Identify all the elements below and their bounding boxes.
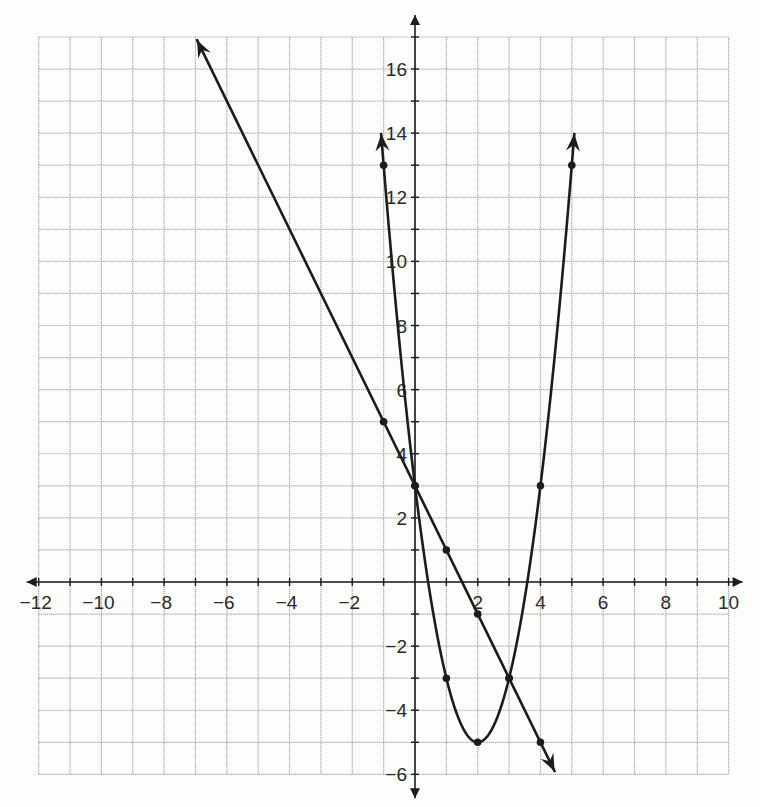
axes bbox=[27, 15, 743, 798]
series-line bbox=[197, 40, 555, 771]
y-axis-up-arrow-icon bbox=[410, 15, 420, 25]
x-tick-label: −8 bbox=[150, 592, 172, 613]
x-tick-label: 4 bbox=[535, 592, 546, 613]
x-tick-label: 6 bbox=[598, 592, 609, 613]
x-axis-left-arrow-icon bbox=[27, 577, 37, 587]
line-point bbox=[443, 546, 451, 554]
x-tick-label: −4 bbox=[276, 592, 298, 613]
x-tick-label: −12 bbox=[20, 592, 52, 613]
y-tick-label: −4 bbox=[385, 700, 407, 721]
x-tick-label: 2 bbox=[472, 592, 483, 613]
y-tick-label: 14 bbox=[386, 123, 408, 144]
line-point bbox=[537, 739, 545, 747]
y-axis-down-arrow-icon bbox=[410, 788, 420, 798]
y-tick-label: −6 bbox=[385, 764, 407, 785]
parabola-point bbox=[568, 161, 576, 169]
line-point bbox=[380, 418, 388, 426]
x-tick-labels: −12−10−8−6−4−2246810 bbox=[20, 592, 740, 613]
parabola-point bbox=[443, 674, 451, 682]
line-point bbox=[474, 610, 482, 618]
x-tick-label: −6 bbox=[213, 592, 235, 613]
grid bbox=[39, 37, 729, 774]
x-tick-label: −2 bbox=[338, 592, 360, 613]
y-tick-labels: −6−4−2246810121416 bbox=[385, 59, 407, 785]
coordinate-plane-chart: −12−10−8−6−4−2246810 −6−4−2246810121416 bbox=[0, 0, 760, 807]
parabola-point bbox=[474, 739, 482, 747]
parabola-point bbox=[380, 161, 388, 169]
y-tick-label: 12 bbox=[386, 187, 407, 208]
parabola-point bbox=[537, 482, 545, 490]
y-tick-label: 16 bbox=[386, 59, 407, 80]
x-tick-label: −10 bbox=[82, 592, 114, 613]
x-tick-label: 10 bbox=[718, 592, 739, 613]
parabola-point bbox=[411, 482, 419, 490]
x-axis-right-arrow-icon bbox=[733, 577, 743, 587]
y-tick-label: 2 bbox=[396, 508, 407, 529]
line-path bbox=[197, 40, 555, 771]
y-tick-label: 10 bbox=[386, 251, 407, 272]
x-tick-label: 8 bbox=[661, 592, 672, 613]
y-tick-label: −2 bbox=[385, 636, 407, 657]
parabola-point bbox=[505, 674, 513, 682]
